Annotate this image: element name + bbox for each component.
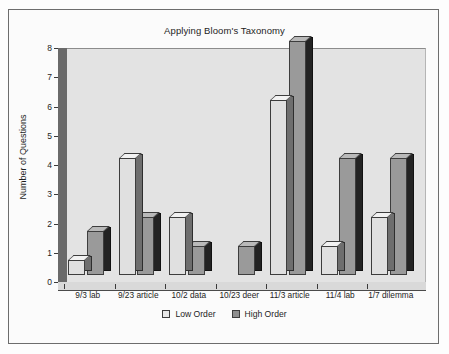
y-tick-label: 5 xyxy=(32,131,52,141)
bar-front-face xyxy=(371,217,388,276)
x-tick-mark xyxy=(64,284,65,289)
x-tick-mark xyxy=(266,284,267,289)
bar-low-order xyxy=(321,246,338,275)
x-tick-mark xyxy=(115,284,116,289)
bar-side-face xyxy=(104,227,111,271)
bar-front-face xyxy=(119,158,136,275)
x-tick-mark xyxy=(216,284,217,289)
x-tick-label: 11/4 lab xyxy=(326,290,355,300)
y-tick-label: 3 xyxy=(32,189,52,199)
x-tick-label: 1/7 dilemma xyxy=(368,290,413,300)
legend-label-high-order: High Order xyxy=(245,309,287,319)
bar-low-order xyxy=(119,158,136,275)
x-tick-mark xyxy=(367,284,368,289)
y-tick-label: 8 xyxy=(32,43,52,53)
legend-swatch-high-order-icon xyxy=(232,310,240,318)
x-tick-label: 10/23 deer xyxy=(219,290,259,300)
legend-item-high-order: High Order xyxy=(232,309,287,319)
bar-side-face xyxy=(338,242,345,271)
axis-left-wall xyxy=(58,48,67,291)
y-tick-label: 0 xyxy=(32,277,52,287)
bar-front-face xyxy=(270,100,287,276)
y-tick-label: 4 xyxy=(32,160,52,170)
bar-high-order xyxy=(238,246,255,275)
bar-front-face xyxy=(238,246,255,275)
bar-side-face xyxy=(407,154,414,271)
chart-legend: Low Order High Order xyxy=(0,309,449,319)
bar-side-face xyxy=(136,154,143,271)
bar-side-face xyxy=(356,154,363,271)
legend-swatch-low-order-icon xyxy=(162,310,170,318)
bar-low-order xyxy=(371,217,388,276)
bar-low-order xyxy=(68,260,85,275)
y-tick-label: 6 xyxy=(32,102,52,112)
chart-screenshot: Applying Bloom's Taxonomy Number of Ques… xyxy=(0,0,449,354)
legend-item-low-order: Low Order xyxy=(162,309,215,319)
chart-title: Applying Bloom's Taxonomy xyxy=(0,25,449,36)
bar-side-face xyxy=(154,213,161,272)
bar-front-face xyxy=(68,260,85,275)
bar-side-face xyxy=(186,213,193,272)
y-axis-label: Number of Questions xyxy=(18,72,28,242)
x-tick-label: 9/3 lab xyxy=(75,290,100,300)
bar-side-face xyxy=(205,242,212,271)
bar-side-face xyxy=(255,242,262,271)
x-tick-label: 9/23 article xyxy=(118,290,159,300)
bar-low-order xyxy=(270,100,287,276)
x-tick-label: 11/3 article xyxy=(270,290,310,300)
bar-side-face xyxy=(388,213,395,272)
y-tick-label: 7 xyxy=(32,72,52,82)
x-tick-mark xyxy=(317,284,318,289)
bar-front-face xyxy=(321,246,338,275)
bar-low-order xyxy=(169,217,186,276)
x-tick-mark xyxy=(165,284,166,289)
legend-label-low-order: Low Order xyxy=(175,309,215,319)
bar-side-face xyxy=(287,96,294,272)
x-tick-label: 10/2 data xyxy=(171,290,206,300)
bar-side-face xyxy=(306,37,313,271)
y-tick-label: 2 xyxy=(32,219,52,229)
bar-front-face xyxy=(169,217,186,276)
plot-area xyxy=(58,48,426,284)
y-tick-label: 1 xyxy=(32,248,52,258)
